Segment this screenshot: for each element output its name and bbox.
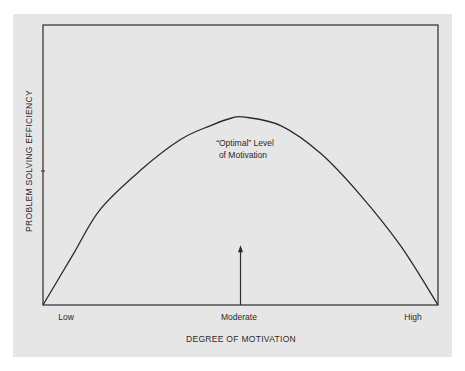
optimal-label-line2: of Motivation: [219, 150, 267, 160]
x-tick-high: High: [404, 312, 422, 322]
arrow-up-icon: [238, 245, 243, 252]
x-axis-title: DEGREE OF MOTIVATION: [186, 334, 296, 344]
optimal-label-line1: “Optimal” Level: [216, 138, 274, 148]
chart-figure: “Optimal” Level of Motivation Low Modera…: [0, 0, 465, 371]
x-tick-moderate: Moderate: [221, 312, 257, 322]
x-tick-low: Low: [58, 312, 74, 322]
y-axis-title: PROBLEM SOLVING EFFICIENCY: [24, 90, 34, 232]
